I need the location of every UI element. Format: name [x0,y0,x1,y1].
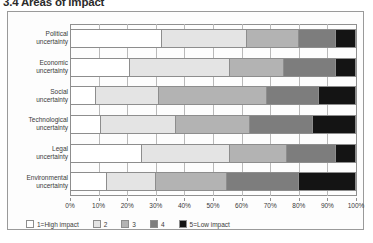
bar-segment [70,86,96,105]
bar-segment [336,29,356,48]
bar-segment [159,86,268,105]
bar-segment [287,144,336,163]
bar-segment [336,144,356,163]
gridline [99,24,100,196]
x-axis-tick-label: 0% [65,202,74,209]
gridline [356,24,357,196]
bar-segment [96,86,159,105]
bar-segment [299,29,336,48]
bar-segment [156,172,228,191]
bar-row [70,58,356,77]
plot-area [70,24,356,196]
x-axis-tick-labels: 0%10%20%30%40%50%60%70%80%90%100% [70,198,356,210]
bar-segment [299,172,356,191]
bar-segment [142,144,231,163]
legend-label: 2 [104,221,108,228]
gridline [70,24,71,196]
x-axis-tick-mark [70,198,71,201]
x-axis-tick-mark [184,198,185,201]
legend-label: 3 [132,221,136,228]
bar-segment [107,172,156,191]
legend-item[interactable]: 3 [121,220,136,228]
gridline [242,24,243,196]
x-axis-tick-mark [99,198,100,201]
bar-segment [247,29,298,48]
x-axis-tick-mark [242,198,243,201]
x-axis-tick-label: 30% [149,202,162,209]
bar-segment [250,115,313,134]
gridline [299,24,300,196]
x-axis-tick-mark [127,198,128,201]
bar-segment [267,86,318,105]
bar-segment [130,58,230,77]
gridline [270,24,271,196]
chart-legend: 1=High impact2345=Low impact [26,220,244,228]
bar-segment [70,115,101,134]
y-axis-label: Economic uncertainty [12,59,68,75]
bar-segment [176,115,250,134]
legend-swatch [121,220,129,228]
legend-item[interactable]: 2 [93,220,108,228]
x-axis-tick-mark [213,198,214,201]
x-axis-tick-label: 20% [121,202,134,209]
bar-segment [70,29,162,48]
bar-segment [70,172,107,191]
bar-row [70,86,356,105]
legend-item[interactable]: 4 [150,220,165,228]
bar-row [70,29,356,48]
legend-swatch [179,220,187,228]
x-axis-tick-label: 70% [264,202,277,209]
gridline [156,24,157,196]
y-axis-label: Technological uncertainty [12,116,68,132]
y-axis-label: Social uncertainty [12,88,68,104]
bar-segment [227,172,299,191]
legend-label: 5=Low impact [190,221,230,228]
x-axis-tick-mark [327,198,328,201]
bar-segment [230,144,287,163]
y-axis-label: Environmental uncertainty [12,174,68,190]
bar-row [70,144,356,163]
x-axis-tick-label: 90% [321,202,334,209]
legend-label: 4 [161,221,165,228]
y-axis-label: Political uncertainty [12,30,68,46]
legend-swatch [150,220,158,228]
x-axis-tick-mark [156,198,157,201]
bar-segment [313,115,356,134]
gridline [327,24,328,196]
bar-segment [162,29,248,48]
x-axis-tick-label: 50% [206,202,219,209]
gridline [127,24,128,196]
bar-segment [101,115,175,134]
x-axis-tick-label: 80% [292,202,305,209]
gridline [213,24,214,196]
bar-segment [284,58,335,77]
bar-segment [230,58,284,77]
y-axis-label: Legal uncertainty [12,145,68,161]
x-axis-tick-mark [299,198,300,201]
bar-segment [70,58,130,77]
bar-segment [70,144,142,163]
legend-item[interactable]: 1=High impact [26,220,79,228]
x-axis-tick-label: 10% [92,202,105,209]
x-axis-tick-label: 100% [348,202,365,209]
legend-item[interactable]: 5=Low impact [179,220,230,228]
page-title: 3.4 Areas of impact [3,0,104,8]
gridline [184,24,185,196]
x-axis-tick-label: 60% [235,202,248,209]
chart-container: Political uncertaintyEconomic uncertaint… [7,11,364,230]
legend-swatch [26,220,34,228]
bar-row [70,172,356,191]
bar-segment [336,58,356,77]
x-axis-tick-mark [270,198,271,201]
x-axis-tick-label: 40% [178,202,191,209]
legend-swatch [93,220,101,228]
bar-row [70,115,356,134]
bar-segment [319,86,356,105]
x-axis-tick-mark [356,198,357,201]
y-axis-category-labels: Political uncertaintyEconomic uncertaint… [8,24,68,196]
legend-label: 1=High impact [37,221,79,228]
